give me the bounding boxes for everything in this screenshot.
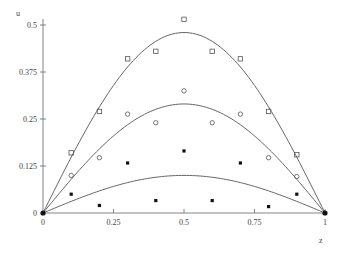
open-square-marker (182, 17, 186, 21)
filled-square-marker (154, 199, 157, 202)
data-points (40, 17, 327, 215)
curve-line (43, 175, 325, 213)
origin-dot (40, 210, 45, 215)
open-square-marker (125, 57, 129, 61)
y-tick-label: 0 (33, 209, 37, 218)
open-circle-marker (295, 174, 299, 178)
curve-line (43, 104, 325, 213)
filled-square-marker (98, 204, 101, 207)
filled-square-marker (267, 205, 270, 208)
y-tick-label: 0.125 (19, 162, 37, 171)
curves (43, 33, 325, 213)
filled-square-marker (211, 199, 214, 202)
open-circle-marker (154, 121, 158, 125)
open-circle-marker (182, 89, 186, 93)
axes (40, 19, 325, 213)
open-circle-marker (210, 121, 214, 125)
x-tick-label: 0 (41, 218, 45, 227)
open-circle-marker (69, 173, 73, 177)
x-tick-label: 1 (323, 218, 327, 227)
y-axis-label: u (16, 9, 20, 18)
filled-square-marker (126, 161, 129, 164)
filled-square-marker (182, 149, 185, 152)
open-circle-marker (97, 156, 101, 160)
open-circle-marker (125, 112, 129, 116)
chart: 00.250.50.75100.1250.250.3750.5uz (0, 0, 338, 256)
open-circle-marker (238, 112, 242, 116)
filled-square-marker (239, 161, 242, 164)
x-axis-label: z (319, 236, 323, 245)
open-circle-marker (266, 156, 270, 160)
x-tick-label: 0.5 (179, 218, 189, 227)
filled-square-marker (70, 193, 73, 196)
open-square-marker (154, 49, 158, 53)
curve-line (43, 33, 325, 213)
x-tick-label: 0.75 (248, 218, 262, 227)
open-square-marker (210, 49, 214, 53)
end-dot (322, 210, 327, 215)
x-tick-label: 0.25 (107, 218, 121, 227)
filled-square-marker (295, 193, 298, 196)
open-square-marker (238, 57, 242, 61)
y-tick-label: 0.375 (19, 68, 37, 77)
y-tick-label: 0.5 (27, 21, 37, 30)
y-tick-label: 0.25 (23, 115, 37, 124)
